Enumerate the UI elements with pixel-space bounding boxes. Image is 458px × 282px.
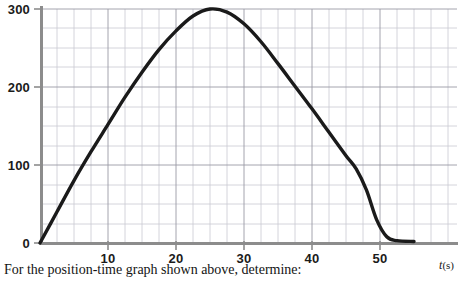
- y-tick-label-200: 200: [0, 80, 30, 95]
- y-tick-label-100: 100: [0, 158, 30, 173]
- x-axis-unit: (s): [442, 259, 454, 271]
- chart-plot-area: [0, 0, 458, 282]
- y-tick-label-300: 300: [0, 2, 30, 17]
- y-tick-label-0: 0: [0, 236, 30, 251]
- grid-minor-horizontal: [41, 28, 457, 224]
- figure-caption: For the position-time graph shown above,…: [4, 262, 301, 278]
- grid-major-horizontal: [41, 9, 457, 165]
- x-tick-label-50: 50: [360, 251, 400, 266]
- position-time-graph-figure: 300 200 100 0 10 20 30 40 50 t(s) For th…: [0, 0, 458, 282]
- x-axis-label: t(s): [439, 258, 454, 273]
- axis-lines: [40, 6, 458, 244]
